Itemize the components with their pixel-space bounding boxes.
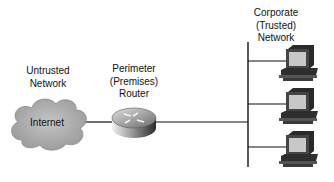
- corporate-line2: (Trusted): [254, 20, 298, 33]
- router-line3: Router: [110, 88, 158, 101]
- router-line1: Perimeter: [110, 63, 158, 76]
- corporate-line1: Corporate: [254, 7, 298, 20]
- untrusted-line2: Network: [26, 78, 69, 91]
- corporate-line3: Network: [254, 32, 298, 45]
- router-icon: [112, 108, 156, 138]
- computer-icon: [279, 45, 318, 81]
- untrusted-network-label: Untrusted Network: [26, 65, 69, 90]
- computer-icon: [279, 88, 318, 124]
- network-diagram: Untrusted Network Internet Perimeter (Pr…: [0, 0, 334, 182]
- router-line2: (Premises): [110, 76, 158, 89]
- router-label: Perimeter (Premises) Router: [110, 63, 158, 101]
- computer-icon: [279, 131, 318, 167]
- corporate-network-label: Corporate (Trusted) Network: [254, 7, 298, 45]
- untrusted-line1: Untrusted: [26, 65, 69, 78]
- internet-label: Internet: [30, 117, 64, 130]
